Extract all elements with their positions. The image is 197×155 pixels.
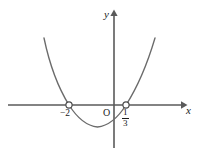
origin-label: O [103, 108, 110, 118]
fraction-one-third: 1 3 [122, 108, 129, 128]
graph-canvas [0, 0, 197, 155]
y-axis-label: y [104, 9, 109, 20]
parabola-figure: y x O −2 1 3 [0, 0, 197, 155]
fraction-numerator: 1 [122, 108, 129, 117]
y-axis-arrowhead [110, 10, 117, 17]
root-label-left: −2 [60, 109, 70, 119]
fraction-denominator: 3 [122, 119, 129, 128]
x-axis-label: x [186, 105, 191, 116]
root-label-right: 1 3 [122, 108, 129, 128]
